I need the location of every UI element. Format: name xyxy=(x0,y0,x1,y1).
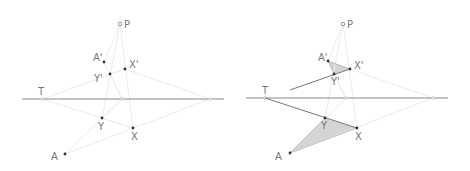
label-Y: Y xyxy=(97,121,105,132)
label-X-prime: X' xyxy=(354,60,364,71)
point-X xyxy=(356,127,359,130)
label-A-prime: A' xyxy=(318,52,328,63)
marker-circle xyxy=(345,97,348,100)
label-Y: Y xyxy=(320,120,328,131)
label-X: X xyxy=(355,131,362,142)
point-Y-prime xyxy=(333,73,336,76)
label-T: T xyxy=(261,85,269,96)
point-A-prime xyxy=(103,61,106,64)
construction-lines xyxy=(42,24,210,154)
point-A xyxy=(289,152,292,155)
marker-circle xyxy=(432,97,435,100)
point-X xyxy=(132,127,135,130)
point-A xyxy=(64,153,67,156)
label-Y-prime: Y' xyxy=(330,76,340,87)
perspective-diagram: P A' X' Y' T Y X A xyxy=(0,0,470,171)
point-Y-prime xyxy=(109,73,112,76)
point-Y xyxy=(101,117,104,120)
line-T-Y-X xyxy=(265,98,357,128)
label-A-prime: A' xyxy=(93,52,103,63)
point-P xyxy=(341,22,345,26)
marker-circle xyxy=(209,98,212,101)
label-A: A xyxy=(51,151,58,162)
label-Y-prime: Y' xyxy=(93,73,103,84)
right-panel: P A' X' Y' T Y X A xyxy=(246,19,448,162)
marker-circle xyxy=(41,98,44,101)
label-P: P xyxy=(124,19,130,30)
label-T: T xyxy=(37,86,45,97)
point-Y xyxy=(324,117,327,120)
label-P: P xyxy=(347,19,353,30)
point-X-prime xyxy=(349,68,352,71)
label-A: A xyxy=(275,151,282,162)
point-X-prime xyxy=(124,68,127,71)
point-P xyxy=(118,22,122,26)
left-panel: P A' X' Y' T Y X A xyxy=(22,19,224,162)
label-X: X xyxy=(131,131,138,142)
marker-circle xyxy=(121,98,124,101)
label-X-prime: X' xyxy=(129,59,139,70)
